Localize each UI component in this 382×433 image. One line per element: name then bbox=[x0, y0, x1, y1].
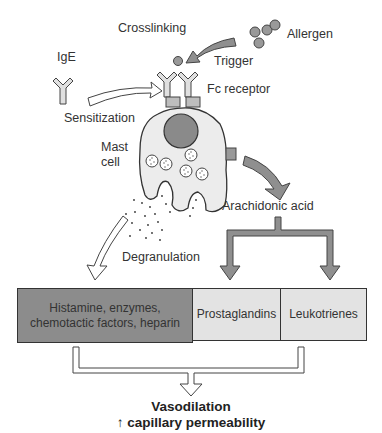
prostaglandins-box: Prostaglandins bbox=[192, 288, 281, 341]
ige-label: IgE bbox=[57, 51, 76, 64]
combine-bracket-icon bbox=[73, 347, 304, 396]
mediators-box: Histamine, enzymes, chemotactic factors,… bbox=[17, 288, 193, 343]
sensitization-label: Sensitization bbox=[64, 112, 135, 125]
arachidonic-arrow-icon bbox=[243, 156, 290, 200]
branch-arrow-icon bbox=[220, 217, 340, 280]
ige-antibody-icon bbox=[53, 78, 73, 104]
increase-arrow-icon: ↑ bbox=[117, 415, 124, 430]
fc-receptor-icon bbox=[166, 97, 200, 107]
outcome-permeability-text: capillary permeability bbox=[127, 415, 265, 430]
diagram-graphics bbox=[0, 0, 382, 433]
bound-ige-icon bbox=[157, 72, 198, 97]
crosslinking-label: Crosslinking bbox=[118, 22, 186, 35]
sensitization-arrow-icon bbox=[88, 82, 162, 106]
leukotrienes-box: Leukotrienes bbox=[280, 288, 367, 341]
degranulation-arrow-icon bbox=[87, 216, 128, 280]
trigger-label: Trigger bbox=[214, 55, 253, 68]
bound-allergen-icon bbox=[174, 57, 183, 66]
outcome-permeability: ↑ capillary permeability bbox=[0, 415, 382, 430]
mast-cell-label-line1: Mast bbox=[101, 141, 128, 154]
arachidonic-acid-label: Arachidonic acid bbox=[222, 200, 314, 213]
membrane-receptor-icon bbox=[226, 148, 236, 160]
outcome-vasodilation: Vasodilation bbox=[0, 399, 382, 414]
mast-cell-label-line2: cell bbox=[101, 156, 120, 169]
degranulation-label: Degranulation bbox=[122, 251, 200, 264]
allergen-label: Allergen bbox=[287, 28, 333, 41]
allergen-icon bbox=[250, 20, 280, 48]
nucleus-icon bbox=[164, 114, 198, 148]
fc-receptor-label: Fc receptor bbox=[207, 83, 270, 96]
